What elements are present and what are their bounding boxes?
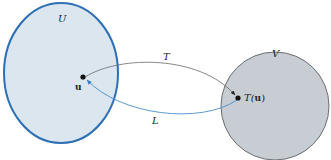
set-v-circle <box>221 52 329 160</box>
arrow-l-label: L <box>151 115 159 126</box>
set-u-ellipse <box>4 3 118 143</box>
point-u <box>80 74 85 79</box>
arrow-t-label: T <box>163 51 171 62</box>
point-tu-label: T(u) <box>244 92 265 103</box>
diagram-canvas: U V T L u T(u) <box>0 0 331 160</box>
point-tu <box>235 95 240 100</box>
point-u-label: u <box>75 82 82 92</box>
point-tu-label-suffix: ) <box>261 92 265 103</box>
set-u-label: U <box>58 13 67 24</box>
